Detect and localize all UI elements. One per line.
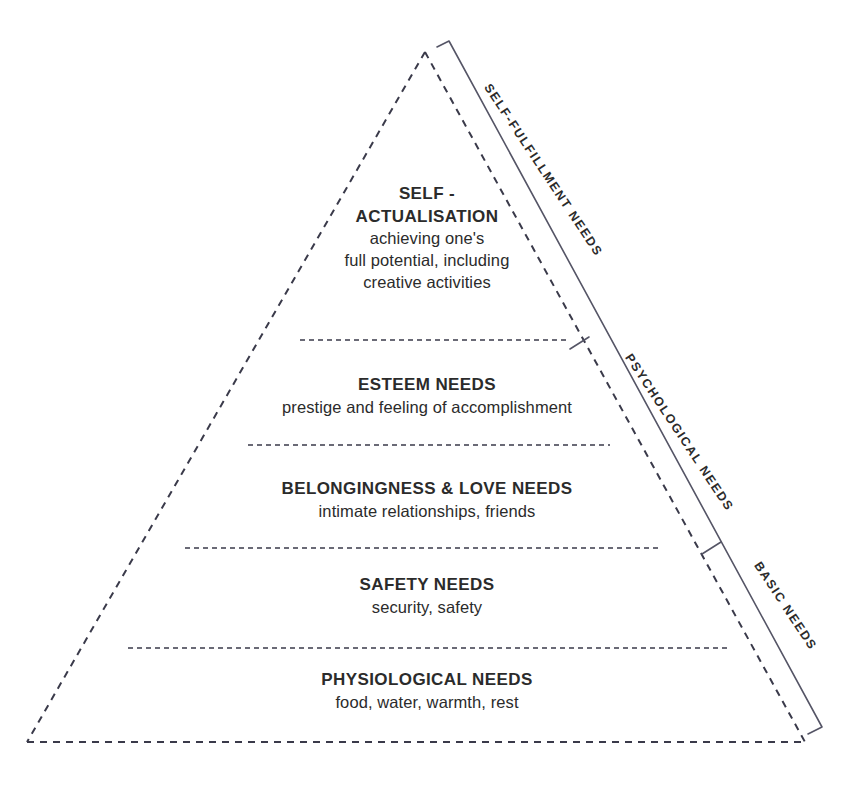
tier-safety: SAFETY NEEDS security, safety (152, 574, 702, 619)
tier-self-actualisation: SELF - ACTUALISATION achieving one's ful… (262, 183, 592, 294)
maslow-pyramid-diagram: SELF - ACTUALISATION achieving one's ful… (0, 0, 864, 800)
tier-self-actualisation-description: achieving one's full potential, includin… (262, 228, 592, 294)
tier-belongingness-description: intimate relationships, friends (172, 501, 682, 523)
tier-physiological: PHYSIOLOGICAL NEEDS food, water, warmth,… (112, 669, 742, 714)
tier-physiological-description: food, water, warmth, rest (112, 692, 742, 714)
tier-safety-title: SAFETY NEEDS (152, 574, 702, 597)
tier-safety-description: security, safety (152, 597, 702, 619)
bracket-tick-self-fulfillment (570, 337, 589, 349)
tier-esteem: ESTEEM NEEDS prestige and feeling of acc… (212, 374, 642, 419)
tier-esteem-title: ESTEEM NEEDS (212, 374, 642, 397)
tier-esteem-description: prestige and feeling of accomplishment (212, 397, 642, 419)
tier-belongingness-title: BELONGINGNESS & LOVE NEEDS (172, 478, 682, 501)
tier-physiological-title: PHYSIOLOGICAL NEEDS (112, 669, 742, 692)
tier-self-actualisation-title: SELF - ACTUALISATION (262, 183, 592, 228)
tier-belongingness: BELONGINGNESS & LOVE NEEDS intimate rela… (172, 478, 682, 523)
bracket-tick-psychological (702, 542, 721, 554)
